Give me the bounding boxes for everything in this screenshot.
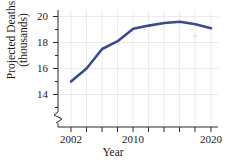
x-axis-title: Year [0, 146, 226, 158]
y-tick-label-16: 16 [28, 62, 48, 74]
y-tick-label-20: 20 [28, 10, 48, 22]
y-tick-label-18: 18 [28, 36, 48, 48]
x-tick-label-2002: 2002 [54, 133, 88, 145]
x-tick-label-2010: 2010 [116, 133, 150, 145]
y-axis-ticks [53, 17, 58, 108]
chart-canvas [0, 0, 226, 168]
data-series-line [71, 22, 211, 82]
scan-artifact-mark: ‹› [193, 33, 197, 38]
x-tick-label-2020: 2020 [194, 133, 226, 145]
line-chart: 20 18 16 14 2002 2010 2020 Projected Dea… [0, 0, 226, 168]
y-tick-label-14: 14 [28, 88, 48, 100]
x-axis-ticks [71, 127, 211, 132]
